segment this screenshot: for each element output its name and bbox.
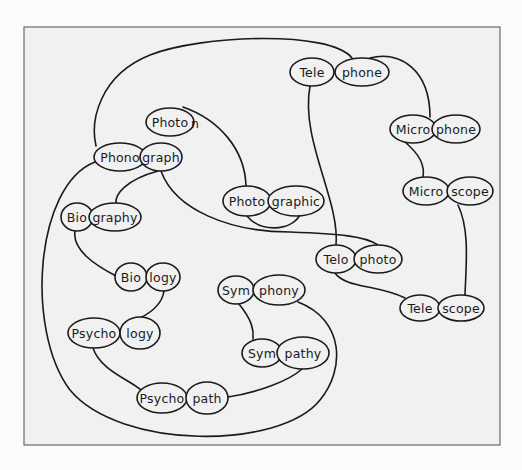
morpheme-label: Bio: [67, 210, 87, 225]
morpheme-label: Tele: [298, 65, 324, 80]
morpheme-label: Photo: [229, 194, 266, 209]
morpheme-network-diagram: TelephonePhotonMicrophonePhonographMicro…: [0, 0, 522, 470]
morpheme-label: scope: [442, 301, 480, 316]
morpheme-label: Telo: [322, 252, 348, 267]
morpheme-label: logy: [126, 326, 154, 341]
morpheme-label: graphic: [272, 194, 320, 209]
morpheme-label: graph: [142, 150, 180, 165]
morpheme-label: graphy: [92, 210, 138, 225]
morpheme-label: path: [192, 391, 221, 406]
morpheme-label: phony: [259, 283, 299, 298]
word-sympathy: Sympathy: [242, 337, 329, 369]
morpheme-label: phone: [342, 65, 382, 80]
suffix-label: n: [191, 116, 199, 131]
morpheme-label: Photo: [152, 115, 189, 130]
word-biography: Biography: [61, 203, 141, 231]
morpheme-label: phone: [436, 122, 476, 137]
morpheme-label: Bio: [121, 270, 141, 285]
morpheme-label: Micro: [409, 184, 444, 199]
morpheme-label: logy: [149, 270, 177, 285]
morpheme-label: scope: [451, 184, 489, 199]
morpheme-label: Phono: [100, 150, 140, 165]
morpheme-label: pathy: [285, 346, 322, 361]
morpheme-label: Psycho: [72, 326, 117, 341]
morpheme-label: Sym: [222, 283, 250, 298]
morpheme-label: Psycho: [140, 391, 185, 406]
word-symphony: Symphony: [218, 275, 305, 305]
morpheme-label: photo: [359, 252, 396, 267]
word-phonograph: Phonograph: [94, 143, 182, 171]
morpheme-label: Micro: [396, 122, 431, 137]
diagram-frame: [24, 27, 500, 445]
morpheme-label: Tele: [406, 301, 432, 316]
morpheme-label: Sym: [248, 346, 276, 361]
